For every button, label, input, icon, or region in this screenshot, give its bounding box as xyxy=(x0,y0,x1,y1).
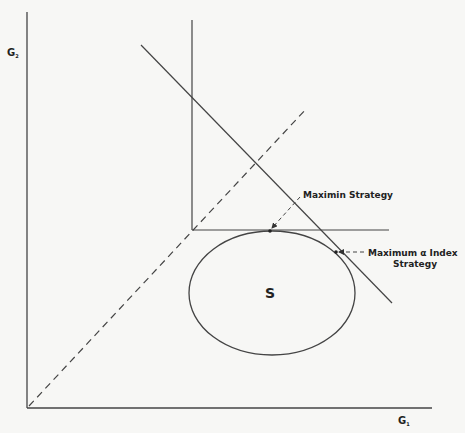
alpha-index-point xyxy=(334,250,338,254)
y-axis-label: G2 xyxy=(7,47,19,59)
alpha-index-annotation-line2: Strategy xyxy=(393,259,437,269)
45-degree-line xyxy=(29,108,307,406)
maximin-point xyxy=(268,229,272,233)
maximin-arrow xyxy=(272,197,300,228)
x-axis-label: G1 xyxy=(398,415,410,427)
alpha-index-line xyxy=(141,45,392,303)
alpha-index-annotation-line1: Maximum α Index xyxy=(368,248,458,258)
maximin-annotation: Maximin Strategy xyxy=(303,190,393,200)
region-label-S: S xyxy=(265,285,275,301)
strategy-diagram: G2 G1 S Maximin Strategy Maximum α Index… xyxy=(0,0,465,433)
